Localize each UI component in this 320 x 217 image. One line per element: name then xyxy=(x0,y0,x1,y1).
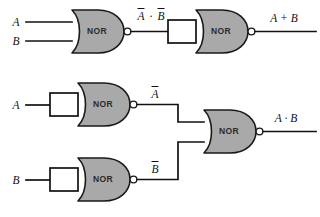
gate-nor-4-label: NOR xyxy=(93,174,113,184)
gate-nor-5-label: NOR xyxy=(219,126,239,136)
label-not-a: A xyxy=(150,87,159,101)
shorted-input-rect-nor2 xyxy=(168,20,196,43)
gate-nor-4-inversion-bubble xyxy=(130,176,137,183)
gate-nor-3-inversion-bubble xyxy=(130,101,137,108)
wire-not-a-to-nor5 xyxy=(137,105,204,123)
gate-nor-2-inversion-bubble xyxy=(248,28,255,35)
label-not-a-text: A xyxy=(150,88,159,100)
gate-nor-1-label: NOR xyxy=(87,26,107,36)
shorted-input-rect-nor4 xyxy=(50,168,78,191)
gate-nor-5-inversion-bubble xyxy=(256,128,263,135)
label-input-a-top: A xyxy=(11,16,20,28)
label-not-a-dot-not-b: A · B xyxy=(136,9,164,23)
label-output-a-plus-b: A + B xyxy=(269,12,297,24)
label-input-a-mid: A xyxy=(11,99,20,111)
label-not-b: B xyxy=(151,162,158,176)
label-not-b-text: B xyxy=(151,163,158,175)
label-output-a-dot-b: A · B xyxy=(274,112,297,124)
gate-nor-3-label: NOR xyxy=(93,99,113,109)
shorted-input-rect-nor3 xyxy=(50,93,78,116)
gate-nor-1-inversion-bubble xyxy=(124,28,131,35)
label-not-a-dot-not-b-a: A xyxy=(136,10,145,22)
logic-diagram-canvas: NOR NOR NOR NOR NOR xyxy=(0,0,320,217)
label-not-a-dot-not-b-b: B xyxy=(157,10,164,22)
label-input-b-top: B xyxy=(12,35,19,47)
wire-not-b-to-nor5 xyxy=(137,142,204,180)
label-not-a-dot-not-b-dot: · xyxy=(150,10,153,22)
label-input-b-bot: B xyxy=(12,174,19,186)
gate-nor-2-label: NOR xyxy=(211,26,231,36)
circuit-schematic: NOR NOR NOR NOR NOR xyxy=(0,0,320,217)
